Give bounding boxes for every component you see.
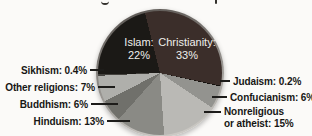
leader-line — [107, 120, 130, 122]
leader-line — [90, 69, 104, 71]
callout-confucianism-label: Confucianism: 6% — [230, 92, 312, 103]
leader-line — [212, 96, 227, 98]
leader-line — [91, 103, 118, 105]
clipped-title-descender-g — [101, 0, 109, 5]
callout-judaism: Judaism: 0.2% — [220, 74, 301, 88]
leader-line — [98, 86, 115, 88]
callout-sikhism: Sikhism: 0.4% — [21, 63, 104, 77]
figure-canvas: Islam: 22% Christianity: 33% Sikhism: 0.… — [0, 0, 312, 136]
leader-line — [204, 111, 221, 113]
callout-nonreligious-label: Nonreligious or atheist: 15% — [224, 106, 294, 130]
callout-buddhism: Buddhism: 6% — [20, 97, 118, 111]
callout-hinduism: Hinduism: 13% — [34, 114, 130, 128]
callout-judaism-label: Judaism: 0.2% — [233, 76, 301, 87]
callout-buddhism-label: Buddhism: 6% — [20, 99, 88, 110]
callout-hinduism-label: Hinduism: 13% — [34, 116, 104, 127]
callout-sikhism-label: Sikhism: 0.4% — [21, 65, 87, 76]
callout-other-religions: Other religions: 7% — [5, 80, 115, 94]
callout-nonreligious: Nonreligious or atheist: 15% — [204, 106, 294, 130]
callout-nonreligious-line1: Nonreligious — [224, 106, 294, 118]
callout-nonreligious-line2: or atheist: 15% — [224, 118, 294, 130]
leader-line — [220, 80, 230, 82]
clipped-title-descender-p — [215, 0, 217, 4]
callout-other-religions-label: Other religions: 7% — [5, 82, 95, 93]
callout-confucianism: Confucianism: 6% — [212, 90, 312, 104]
